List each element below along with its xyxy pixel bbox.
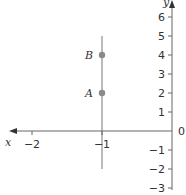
point-a — [99, 90, 105, 96]
x-axis-label: x — [5, 136, 12, 149]
y-axis-arrow-icon — [169, 0, 175, 8]
x-tick-label: −1 — [94, 138, 110, 151]
y-tick-label: 5 — [158, 30, 165, 43]
y-tick-label: 6 — [158, 11, 165, 24]
y-tick-label: 1 — [158, 106, 165, 119]
y-tick-label: 3 — [158, 68, 165, 81]
x-ticks — [32, 131, 102, 135]
x-tick-label: −2 — [24, 138, 40, 151]
origin-label: 0 — [178, 125, 185, 138]
y-tick-label: −3 — [149, 182, 165, 195]
point-a-label: A — [84, 87, 93, 100]
point-b — [99, 52, 105, 58]
y-tick-label: 4 — [158, 49, 165, 62]
x-axis-arrow-icon — [9, 128, 17, 134]
y-ticks — [168, 17, 172, 188]
point-b-label: B — [84, 49, 93, 62]
coordinate-plane: 6 5 4 3 2 1 −1 −2 −3 0 −2 −1 x y B A — [0, 0, 186, 195]
y-tick-label: 2 — [158, 87, 165, 100]
y-tick-label: −1 — [149, 144, 165, 157]
y-axis-label: y — [162, 0, 170, 9]
y-tick-label: −2 — [149, 163, 165, 176]
